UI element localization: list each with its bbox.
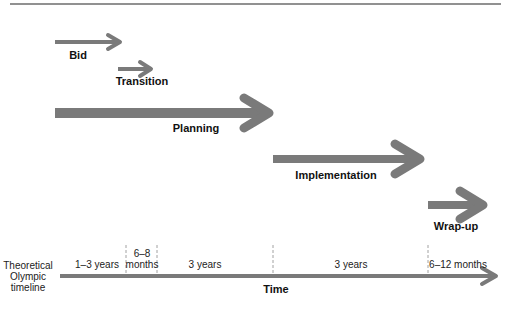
- timeline-row-label-line3: timeline: [3, 282, 52, 293]
- wrap-up-arrow-icon: [428, 191, 483, 219]
- segment-label-transition-duration: 6–8 months: [126, 248, 159, 270]
- transition-arrow-icon: [118, 62, 151, 76]
- timeline-dividers: [126, 245, 428, 275]
- phase-label-wrap-up: Wrap-up: [434, 220, 478, 232]
- time-axis-arrow-icon: [60, 268, 496, 284]
- time-axis-label: Time: [263, 283, 288, 295]
- timeline-row-label: Theoretical Olympic timeline: [3, 260, 52, 293]
- bid-arrow-icon: [55, 35, 120, 49]
- segment-label-transition-line1: 6–8: [126, 248, 159, 259]
- phase-label-bid: Bid: [69, 49, 87, 61]
- timeline-row-label-line1: Theoretical: [3, 260, 52, 271]
- segment-label-planning-duration: 3 years: [189, 259, 222, 270]
- segment-label-wrap-up-duration: 6–12 months: [429, 259, 487, 270]
- phase-label-implementation: Implementation: [295, 169, 376, 181]
- phase-label-transition: Transition: [116, 75, 169, 87]
- planning-arrow-icon: [55, 98, 269, 128]
- segment-label-bid-duration: 1–3 years: [75, 259, 119, 270]
- segment-label-transition-line2: months: [126, 259, 159, 270]
- phase-label-planning: Planning: [173, 122, 219, 134]
- timeline-row-label-line2: Olympic: [3, 271, 52, 282]
- segment-label-implementation-duration: 3 years: [335, 259, 368, 270]
